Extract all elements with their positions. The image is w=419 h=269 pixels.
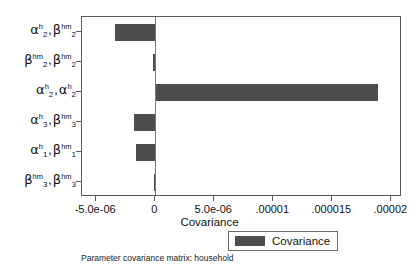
y-axis-category-label: αh2,αh2 — [36, 83, 76, 100]
y-axis-tick — [76, 181, 81, 182]
y-axis-category-label: βhm3,βhm3 — [24, 173, 76, 190]
y-axis-tick — [76, 61, 81, 62]
chart-caption: Parameter covariance matrix: household — [81, 253, 234, 263]
x-axis-tick-label: 0 — [151, 203, 157, 215]
x-axis-tick — [331, 196, 332, 201]
bars-layer — [82, 17, 400, 195]
y-axis-category-label: αh1,βhm1 — [30, 143, 76, 160]
plot-area — [81, 16, 401, 196]
zero-reference-line — [155, 17, 156, 195]
legend-swatch-covariance — [235, 236, 265, 246]
y-axis-tick — [76, 31, 81, 32]
y-axis-category-label: αh2,βhm2 — [30, 23, 76, 40]
x-axis-tick-label: .00001 — [255, 203, 289, 215]
x-axis-tick — [390, 196, 391, 201]
legend: Covariance — [228, 231, 338, 251]
bar — [134, 114, 155, 131]
x-axis-tick-label: .000015 — [311, 203, 351, 215]
y-axis-tick — [76, 151, 81, 152]
x-axis-title: Covariance — [0, 216, 419, 228]
y-axis-tick — [76, 91, 81, 92]
x-axis-tick — [213, 196, 214, 201]
x-axis-tick — [272, 196, 273, 201]
bar — [115, 24, 155, 41]
x-axis-tick — [95, 196, 96, 201]
x-axis-tick — [154, 196, 155, 201]
legend-label-covariance: Covariance — [272, 235, 330, 247]
x-axis-tick-label: 5.0e-06 — [195, 203, 232, 215]
bar — [136, 144, 155, 161]
y-axis-category-label: βhm2,βhm2 — [24, 53, 76, 70]
covariance-bar-chart: αh2,βhm2βhm2,βhm2αh2,αh2αh3,βhm3αh1,βhm1… — [0, 0, 419, 269]
x-axis-tick-label: -5.0e-06 — [75, 203, 116, 215]
y-axis-tick — [76, 121, 81, 122]
bar — [155, 84, 378, 101]
x-axis-tick-label: .00002 — [374, 203, 408, 215]
y-axis-category-label: αh3,βhm3 — [30, 113, 76, 130]
y-axis-category-labels: αh2,βhm2βhm2,βhm2αh2,αh2αh3,βhm3αh1,βhm1… — [0, 16, 79, 196]
